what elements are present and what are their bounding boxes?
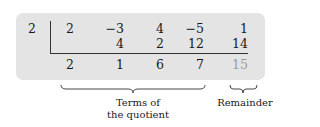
quotient-term-1: 2 <box>50 58 74 72</box>
quotient-term-2: 1 <box>100 58 124 72</box>
coefficient-3: 4 <box>140 22 164 36</box>
product-5: 14 <box>224 37 248 51</box>
division-horizontal-rule <box>50 53 248 54</box>
quotient-label-line-1: Terms of <box>98 97 178 109</box>
quotient-term-4: 7 <box>180 58 204 72</box>
quotient-term-3: 6 <box>140 58 164 72</box>
quotient-label: Terms of the quotient <box>98 97 178 121</box>
remainder-brace-icon <box>229 84 258 94</box>
coefficient-2: −3 <box>100 22 124 36</box>
remainder-label: Remainder <box>212 97 278 109</box>
coefficient-4: −5 <box>180 22 204 36</box>
product-3: 2 <box>140 37 164 51</box>
product-4: 12 <box>180 37 204 51</box>
remainder-value: 15 <box>224 58 248 72</box>
coefficient-1: 2 <box>50 22 74 36</box>
quotient-brace-icon <box>60 84 206 94</box>
quotient-label-line-2: the quotient <box>98 109 178 121</box>
product-2: 4 <box>100 37 124 51</box>
divisor: 2 <box>28 22 36 36</box>
coefficient-5: 1 <box>224 22 248 36</box>
